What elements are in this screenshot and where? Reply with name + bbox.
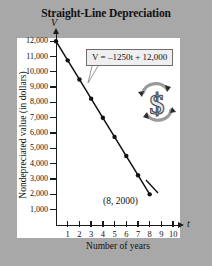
data-point-marker	[148, 192, 152, 196]
data-point-marker	[66, 58, 70, 62]
data-series-layer	[0, 0, 212, 266]
data-point-marker	[77, 77, 81, 81]
data-point-marker	[54, 39, 58, 43]
data-point-marker	[124, 154, 128, 158]
callout-leader-line	[88, 66, 98, 83]
data-point-marker	[112, 135, 116, 139]
data-point-marker	[101, 116, 105, 120]
data-point-marker	[136, 173, 140, 177]
depreciation-chart-figure: Straight-Line Depreciation V t 12,00011,…	[0, 0, 212, 266]
svg-text:$: $	[150, 87, 165, 120]
equation-callout: V = –1250t + 12,000	[86, 49, 173, 66]
data-point-marker	[89, 96, 93, 100]
dollar-sign-recycle-icon: $	[134, 79, 180, 126]
point-coordinate-label: (8, 2000)	[103, 196, 138, 206]
